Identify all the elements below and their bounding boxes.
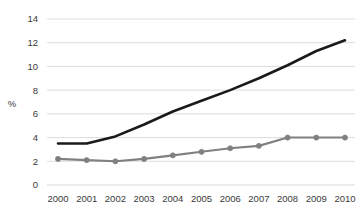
y-axis-tick-label: 14 (27, 13, 38, 24)
x-axis-tick-label: 2005 (191, 193, 212, 204)
x-axis-tick-label: 2008 (277, 193, 298, 204)
x-axis-tick-label: 2007 (248, 193, 269, 204)
x-axis-tick-label: 2006 (220, 193, 241, 204)
series-layer (55, 40, 347, 164)
line-chart: 02468101214 2000200120022003200420052006… (0, 0, 362, 220)
x-axis-tick-label: 2009 (306, 193, 327, 204)
data-point-marker (199, 149, 204, 154)
series-line (58, 40, 345, 143)
y-axis-tick-label: 4 (33, 132, 38, 143)
y-axis-tick-label: 10 (27, 61, 38, 72)
x-axis-tick-label: 2010 (334, 193, 355, 204)
x-axis-tick-label: 2001 (76, 193, 97, 204)
y-axis-tick-label: 2 (33, 156, 38, 167)
y-axis-tick-labels: 02468101214 (27, 13, 38, 190)
data-point-marker (285, 135, 290, 140)
x-axis-tick-labels: 2000200120022003200420052006200720082009… (47, 193, 355, 204)
data-point-marker (314, 135, 319, 140)
y-axis-tick-label: 6 (33, 108, 38, 119)
data-point-marker (342, 135, 347, 140)
x-axis-tick-label: 2004 (162, 193, 183, 204)
data-point-marker (228, 146, 233, 151)
x-axis-tick-label: 2002 (105, 193, 126, 204)
x-axis-tick-label: 2003 (134, 193, 155, 204)
data-point-marker (55, 156, 60, 161)
series-black-line (58, 40, 345, 143)
y-axis-tick-label: 12 (27, 37, 38, 48)
y-axis-title: % (8, 98, 17, 109)
data-point-marker (256, 143, 261, 148)
y-axis-tick-label: 0 (33, 179, 38, 190)
data-point-marker (113, 159, 118, 164)
y-axis-title-label: % (8, 98, 17, 109)
data-point-marker (170, 153, 175, 158)
x-axis-tick-label: 2000 (47, 193, 68, 204)
chart-canvas: 02468101214 2000200120022003200420052006… (0, 0, 362, 220)
y-axis-tick-label: 8 (33, 85, 38, 96)
data-point-marker (142, 156, 147, 161)
data-point-marker (84, 158, 89, 163)
